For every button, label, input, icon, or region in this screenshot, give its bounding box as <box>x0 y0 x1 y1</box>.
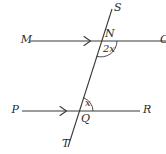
label-transversal-top: S <box>114 2 122 13</box>
geometry-diagram: M O P R S T N Q 2x x <box>0 0 166 154</box>
label-line-upper-left: M <box>21 34 32 45</box>
label-transversal-bottom: T <box>62 138 69 149</box>
label-vertex-lower: Q <box>81 113 90 124</box>
label-vertex-upper: N <box>105 28 115 39</box>
diagram-canvas <box>0 0 166 154</box>
label-angle-lower: x <box>85 98 91 108</box>
label-angle-upper: 2x <box>103 44 115 54</box>
label-line-lower-right: R <box>143 104 151 115</box>
label-line-lower-left: P <box>12 104 19 115</box>
label-line-upper-right: O <box>160 34 166 45</box>
